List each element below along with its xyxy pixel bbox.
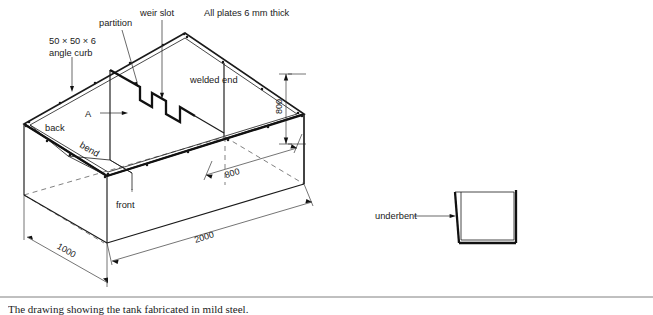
technical-drawing-svg: 800 800 2000 bbox=[0, 0, 653, 315]
label-angle-curb-spec: 50 × 50 × 6 bbox=[49, 36, 96, 46]
text-labels: All plates 6 mm thick 50 × 50 × 6 angle … bbox=[45, 8, 290, 210]
partition-plate bbox=[110, 70, 224, 190]
label-angle-curb-text: angle curb bbox=[49, 48, 92, 58]
dimension-depth-1000: 1000 bbox=[24, 195, 108, 287]
dimension-value-depth: 1000 bbox=[55, 241, 77, 260]
hidden-lines bbox=[24, 137, 304, 243]
dimension-value-length: 2000 bbox=[193, 229, 215, 244]
label-front: front bbox=[116, 200, 135, 210]
tank-isometric-view bbox=[24, 33, 304, 243]
label-section-marker-a: A bbox=[85, 109, 92, 119]
label-weir-slot: weir slot bbox=[139, 8, 175, 18]
dimension-length-2000: 2000 bbox=[107, 184, 313, 265]
dimension-annotations: 800 800 2000 bbox=[24, 74, 313, 287]
label-underbent: underbent bbox=[375, 211, 417, 221]
leader-lines bbox=[70, 20, 164, 115]
dimension-value-height: 800 bbox=[274, 99, 284, 114]
underbent-detail-view: underbent bbox=[375, 190, 516, 243]
engineering-drawing-canvas: 800 800 2000 bbox=[0, 0, 653, 315]
dimension-value-width: 800 bbox=[223, 166, 240, 180]
figure-caption: The drawing showing the tank fabricated … bbox=[8, 303, 428, 315]
label-plate-thickness-note: All plates 6 mm thick bbox=[204, 8, 290, 18]
label-welded-end: welded end bbox=[189, 75, 238, 85]
label-back: back bbox=[45, 123, 65, 133]
label-partition: partition bbox=[99, 18, 132, 28]
bend-panel bbox=[68, 156, 132, 176]
